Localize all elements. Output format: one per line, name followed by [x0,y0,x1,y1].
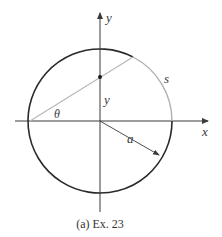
diagram-canvas [0,0,222,237]
y-segment-label: y [104,93,110,106]
chord-line [30,57,133,121]
intersection-dot [98,75,102,79]
x-axis-label: x [202,125,208,138]
radius-a-label: a [127,132,134,145]
arc-s [133,57,172,121]
y-axis-label: y [106,11,112,24]
circle-diagram: y x θ y s a (a) Ex. 23 [0,0,222,237]
theta-label: θ [54,108,60,120]
arc-s-label: s [164,72,169,85]
figure-caption: (a) Ex. 23 [0,218,200,230]
